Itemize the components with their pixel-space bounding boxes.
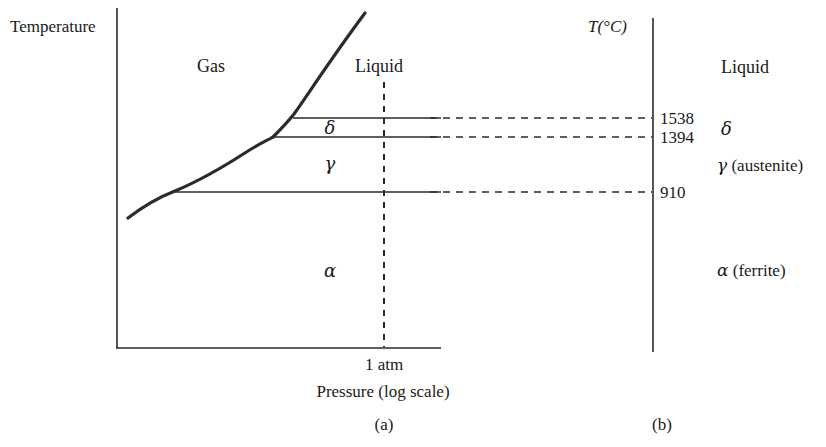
phase-label-gas: Gas <box>197 57 225 75</box>
panel-a-caption: (a) <box>375 416 394 433</box>
panel-a-y-axis-label: Temperature <box>10 18 96 35</box>
panel-b-axis-label: T(°C) <box>588 18 627 35</box>
phase-label-delta-b: δ <box>721 120 732 138</box>
phase-label-liquid-b: Liquid <box>721 58 769 76</box>
gamma-austenite-text: (austenite) <box>727 156 803 175</box>
phase-label-alpha-a: α <box>324 262 336 280</box>
tick-label-910: 910 <box>660 184 686 201</box>
alpha-glyph: α <box>717 260 728 280</box>
gas-condensed-boundary-curve <box>128 137 273 218</box>
alpha-ferrite-text: (ferrite) <box>728 261 785 280</box>
phase-label-gamma-austenite: γ (austenite) <box>717 157 803 174</box>
gamma-glyph: γ <box>717 155 727 175</box>
phase-label-gamma-a: γ <box>325 155 336 173</box>
panel-b-axis-label-text: T(°C) <box>588 17 627 36</box>
phase-diagram-figure: Temperature Gas Liquid δ γ α 1 atm Press… <box>0 0 826 447</box>
phase-label-alpha-ferrite: α (ferrite) <box>717 262 786 279</box>
figure-vector-layer <box>0 0 826 447</box>
one-atm-label: 1 atm <box>365 356 403 373</box>
panel-b-caption: (b) <box>652 416 672 433</box>
phase-label-delta-a: δ <box>325 119 336 137</box>
phase-label-liquid-a: Liquid <box>355 57 403 75</box>
panel-a-x-axis-label: Pressure (log scale) <box>316 383 449 400</box>
tick-label-1538: 1538 <box>660 110 694 127</box>
tick-label-1394: 1394 <box>660 129 694 146</box>
